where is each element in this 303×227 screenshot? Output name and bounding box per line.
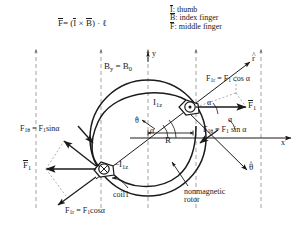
force-label-F1theta-left: F1θ = F1sinα [20, 125, 59, 133]
current-label-top-coil: I1z [153, 98, 162, 108]
lorentz-force-formula: F= (I × B) · ℓ [58, 19, 107, 28]
force-decomposition-dashed-top [196, 93, 246, 107]
current-label-bottom-coil: −I1z [114, 160, 128, 170]
angle-alpha-top-coil: α [207, 99, 211, 107]
force-vector-F1r-bottom [58, 177, 96, 205]
r-hat-unit-vector-label: ^r [252, 54, 255, 63]
angle-alpha-right: α [228, 116, 232, 124]
rotor-annotation: nonmagnetic rotor [184, 188, 225, 205]
diagram-canvas [0, 0, 303, 227]
theta-hat-center-label: ^θ [135, 117, 139, 125]
rotor-callout-leader [172, 162, 188, 186]
right-hand-rule-legend: I: thumb B: index finger F: middle finge… [170, 6, 222, 31]
force-vector-label-F1-left: F1 [23, 161, 31, 171]
force-label-F1r-bottom-left: F1r = F1cosα [65, 207, 105, 215]
theta-hat-unit-vector-label: ^θ [249, 163, 253, 172]
y-axis-label: y [152, 50, 156, 58]
force-label-F1r-top-right: F1r = F1 cos α [206, 75, 250, 83]
angle-alpha-center: α [150, 127, 154, 135]
legend-item-force: F: middle finger [170, 23, 222, 31]
radius-label: R [165, 136, 171, 145]
force-label-F1theta-right: F1θ = F1 sin α [203, 126, 246, 134]
x-axis-label: x [281, 139, 285, 147]
force-vector-label-F1-right: F1 [248, 101, 256, 111]
force-vector-F1theta-bottom [64, 141, 96, 166]
coil-annotation: coil1 [113, 191, 129, 199]
physics-diagram-figure: F= (I × B) · ℓ I: thumb B: index finger … [0, 0, 303, 227]
field-magnitude-label: By = B0 [104, 62, 132, 72]
